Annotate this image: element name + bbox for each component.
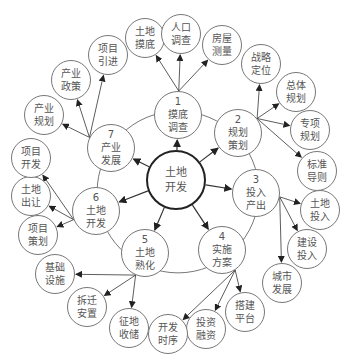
ring-node-6: 6土地开发 bbox=[72, 187, 120, 235]
arrow-line bbox=[280, 197, 282, 262]
node-label-l2: 调查 bbox=[168, 121, 188, 134]
ring-node-3: 3投入产出 bbox=[232, 169, 280, 217]
ring-node-7: 7产业发展 bbox=[87, 124, 135, 172]
arrow-line bbox=[77, 100, 89, 137]
node-label-label1: 土地 bbox=[165, 165, 187, 180]
leaf-node: 城市发展 bbox=[262, 263, 302, 303]
node-label-l2: 设施 bbox=[45, 274, 65, 287]
node-label-l2: 投入 bbox=[297, 249, 317, 262]
node-label-l1: 拆迁 bbox=[77, 294, 97, 307]
node-label-l2: 导则 bbox=[307, 171, 327, 184]
ring-node-2: 2规划策划 bbox=[214, 109, 262, 157]
arrow-line bbox=[76, 274, 136, 275]
node-label-l1: 项目 bbox=[98, 42, 118, 55]
node-label-l2: 产出 bbox=[246, 199, 266, 212]
node-label-l2: 策划 bbox=[28, 235, 48, 248]
node-label-l1: 房屋 bbox=[212, 32, 232, 45]
node-label-l2: 摸底 bbox=[135, 38, 155, 51]
land-development-diagram: 土地开发1摸底调查2规划策划3投入产出4实施方案5土地熟化6土地开发7产业发展土… bbox=[0, 0, 350, 362]
node-label-num: 1 bbox=[175, 96, 181, 108]
node-label-l2: 出让 bbox=[21, 196, 41, 209]
leaf-node: 房屋测量 bbox=[202, 25, 242, 65]
node-label-l1: 投入 bbox=[246, 186, 266, 199]
node-label-l2: 平台 bbox=[235, 312, 255, 325]
leaf-node: 项目引进 bbox=[88, 35, 128, 75]
arrow-line bbox=[200, 148, 218, 162]
leaf-node: 搭建平台 bbox=[225, 292, 265, 332]
node-label-l1: 人口 bbox=[171, 21, 191, 34]
node-label-l2: 开发 bbox=[21, 158, 41, 171]
leaf-node: 标准导则 bbox=[297, 151, 337, 191]
node-label-l2: 开发 bbox=[86, 217, 106, 230]
node-label-l2: 定位 bbox=[251, 64, 271, 77]
node-label-l2: 方案 bbox=[212, 256, 232, 269]
node-label-l2: 时序 bbox=[158, 334, 178, 347]
leaf-node: 项目开发 bbox=[11, 138, 51, 178]
node-label-l1: 基础 bbox=[45, 261, 65, 274]
leaf-node: 土地摸底 bbox=[125, 18, 165, 58]
node-label-l1: 摸底 bbox=[168, 108, 188, 121]
leaf-node: 土地出让 bbox=[11, 176, 51, 216]
node-label-l2: 规划 bbox=[34, 115, 54, 128]
ring-node-4: 4实施方案 bbox=[198, 226, 246, 274]
arrow-line bbox=[49, 206, 73, 219]
node-label-l2: 规划 bbox=[286, 92, 306, 105]
arrow-line bbox=[155, 208, 165, 230]
node-label-l1: 专项 bbox=[300, 117, 320, 130]
node-label-l2: 测量 bbox=[212, 45, 232, 58]
node-label-l1: 产业 bbox=[101, 141, 121, 154]
leaf-node: 基础设施 bbox=[35, 254, 75, 294]
leaf-node: 开发时序 bbox=[148, 314, 188, 354]
arrow-line bbox=[119, 191, 148, 202]
arrow-line bbox=[179, 55, 180, 91]
node-label-l1: 战略 bbox=[251, 51, 271, 64]
node-label-l1: 土地 bbox=[86, 204, 106, 217]
node-label-l1: 投资 bbox=[196, 316, 216, 329]
node-label-l1: 产业 bbox=[34, 102, 54, 115]
node-label-num: 6 bbox=[93, 192, 99, 204]
leaf-node: 拆迁安置 bbox=[67, 287, 107, 327]
node-label-l1: 征地 bbox=[119, 315, 139, 328]
node-label-l2: 安置 bbox=[77, 307, 97, 320]
leaf-node: 战略定位 bbox=[241, 44, 281, 84]
center-node-land-development: 土地开发 bbox=[146, 150, 206, 210]
leaf-node: 投资融资 bbox=[186, 309, 226, 349]
node-label-num: 3 bbox=[253, 174, 259, 186]
node-label-l2: 投入 bbox=[310, 210, 330, 223]
node-label-l2: 规划 bbox=[300, 130, 320, 143]
arrow-line bbox=[206, 185, 232, 189]
node-label-l2: 策划 bbox=[228, 139, 248, 152]
node-label-l2: 融资 bbox=[196, 329, 216, 342]
leaf-node: 专项规划 bbox=[290, 110, 330, 150]
arrow-line bbox=[132, 275, 136, 307]
node-label-num: 4 bbox=[219, 231, 225, 243]
ring-node-1: 1摸底调查 bbox=[154, 91, 202, 139]
node-label-l1: 城市 bbox=[272, 270, 292, 283]
node-label-l2: 政策 bbox=[61, 80, 81, 93]
node-label-l1: 项目 bbox=[21, 145, 41, 158]
node-label-l1: 产业 bbox=[61, 67, 81, 80]
arrow-line bbox=[257, 104, 279, 119]
arrow-line bbox=[57, 220, 73, 227]
arrow-line bbox=[179, 60, 208, 91]
node-label-l2: 发展 bbox=[101, 154, 121, 167]
node-label-l1: 实施 bbox=[212, 243, 232, 256]
node-label-l2: 调查 bbox=[171, 34, 191, 47]
arrow-line bbox=[257, 119, 289, 126]
leaf-node: 产业政策 bbox=[51, 60, 91, 100]
node-label-l2: 引进 bbox=[98, 55, 118, 68]
leaf-node: 产业规划 bbox=[24, 95, 64, 135]
arrow-line bbox=[235, 270, 240, 291]
node-label-num: 2 bbox=[235, 114, 241, 126]
node-label-num: 5 bbox=[142, 234, 148, 246]
arrow-line bbox=[105, 275, 136, 295]
node-label-num: 7 bbox=[108, 129, 114, 141]
arrow-line bbox=[192, 205, 208, 229]
node-label-l1: 规划 bbox=[228, 126, 248, 139]
node-label-l1: 标准 bbox=[307, 158, 327, 171]
arrow-line bbox=[257, 85, 259, 119]
node-label-label2: 开发 bbox=[165, 180, 187, 195]
leaf-node: 总体规划 bbox=[276, 72, 316, 112]
node-label-l1: 建设 bbox=[297, 236, 317, 249]
node-label-l2: 收储 bbox=[119, 328, 139, 341]
